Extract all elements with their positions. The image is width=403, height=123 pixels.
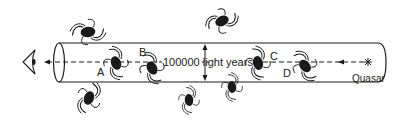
galaxy-label-b: B [139, 46, 146, 58]
arrowhead-icon [338, 60, 344, 65]
galaxy-icon [69, 18, 107, 46]
galaxy-icon [178, 85, 201, 116]
star-icon [364, 58, 372, 66]
quasar-absorption-diagram: Quasar 100000 light years A B C D [0, 0, 403, 123]
galaxy-d-icon [285, 45, 325, 86]
quasar-label: Quasar [352, 73, 385, 84]
galaxy-label-a: A [97, 66, 105, 78]
arrowhead-icon [44, 60, 50, 65]
galaxy-icon [72, 78, 106, 118]
galaxy-label-d: D [283, 67, 291, 79]
galaxy-icon [219, 71, 244, 103]
galaxy-label-c: C [270, 50, 278, 62]
scale-label: 100000 light years [163, 56, 253, 68]
eye-icon [23, 50, 36, 74]
galaxy-icon [202, 3, 243, 39]
